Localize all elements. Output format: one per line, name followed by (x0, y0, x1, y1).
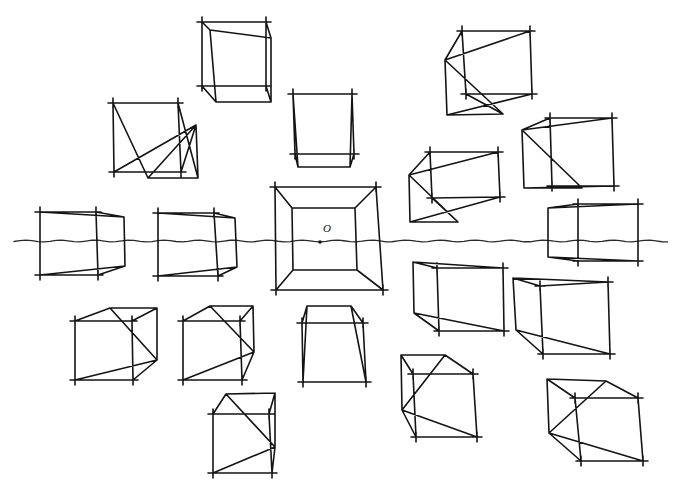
cubes-layer (35, 17, 648, 478)
cube-right-below-a (413, 262, 509, 336)
cube-far-right-upper (522, 113, 619, 191)
cube-left-horizon (35, 207, 125, 280)
cube-right-horizon (548, 199, 643, 266)
sketch-drawing (0, 0, 681, 484)
cube-bottom-center (208, 393, 277, 478)
cube-edges (208, 393, 277, 478)
cube-center-frame (270, 182, 388, 295)
cube-top-center-left (197, 17, 271, 102)
cube-lower-center (297, 306, 371, 387)
perspective-sketch-canvas: O (0, 0, 681, 484)
cube-edges (522, 113, 619, 191)
cube-bottom-right-a (401, 355, 482, 442)
cube-edges (270, 182, 388, 295)
cube-lower-left-center (178, 306, 254, 385)
cube-edges (413, 262, 509, 336)
horizon-line (14, 240, 668, 242)
cube-edges (547, 379, 648, 466)
cube-edges (401, 355, 482, 442)
cube-edges (288, 89, 359, 167)
cube-edges (35, 207, 125, 280)
cube-edges (108, 98, 198, 178)
cube-bottom-right-b (547, 379, 648, 466)
cube-edges (445, 26, 537, 115)
cube-upper-left (108, 98, 198, 178)
cube-upper-center (288, 89, 359, 167)
cube-edges (513, 277, 615, 359)
cube-edges (409, 147, 505, 222)
cube-edges (178, 306, 254, 385)
cube-edges (297, 306, 371, 387)
vanishing-point-dot (318, 240, 322, 244)
cube-left-center-horizon (153, 208, 237, 281)
cube-edges (153, 208, 237, 281)
cube-lower-left (70, 308, 157, 385)
cube-edges (70, 308, 157, 385)
vanishing-point-label: O (323, 222, 331, 234)
cube-top-right (445, 26, 537, 115)
cube-edges (197, 17, 271, 102)
cube-mid-right-upper (409, 147, 505, 222)
cube-right-below-b (513, 277, 615, 359)
cube-edges (548, 199, 643, 266)
